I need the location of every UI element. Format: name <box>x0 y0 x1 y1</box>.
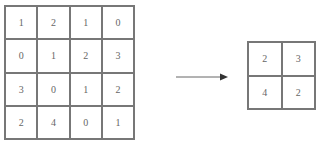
input-cell: 1 <box>5 6 37 39</box>
input-cell: 0 <box>37 73 69 106</box>
input-cell: 4 <box>37 106 69 139</box>
input-cell: 2 <box>70 39 102 72</box>
input-cell: 2 <box>37 6 69 39</box>
output-cell: 2 <box>248 42 282 76</box>
input-cell: 1 <box>102 106 134 139</box>
input-cell: 2 <box>5 106 37 139</box>
input-cell: 1 <box>70 73 102 106</box>
input-cell: 1 <box>37 39 69 72</box>
input-cell: 3 <box>5 73 37 106</box>
input-cell: 3 <box>102 39 134 72</box>
arrow-right-icon <box>176 72 228 82</box>
input-matrix: 1 2 1 0 0 1 2 3 3 0 1 2 2 4 0 1 <box>4 5 135 140</box>
input-cell: 1 <box>70 6 102 39</box>
input-cell: 0 <box>102 6 134 39</box>
input-cell: 2 <box>102 73 134 106</box>
output-cell: 2 <box>282 76 316 110</box>
output-cell: 3 <box>282 42 316 76</box>
input-cell: 0 <box>5 39 37 72</box>
input-cell: 0 <box>70 106 102 139</box>
output-cell: 4 <box>248 76 282 110</box>
output-matrix: 2 3 4 2 <box>247 41 316 110</box>
